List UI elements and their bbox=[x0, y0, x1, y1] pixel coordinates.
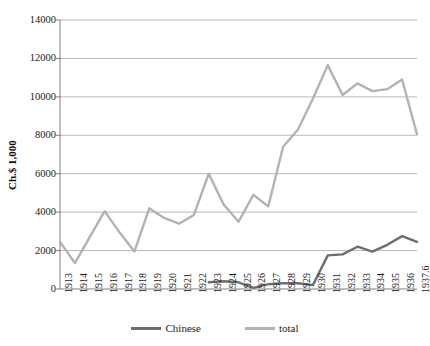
x-axis-tick-label: 1931 bbox=[332, 273, 342, 293]
x-axis-tick-label: 1916 bbox=[109, 273, 119, 293]
x-axis-tick-label: 1924 bbox=[228, 273, 238, 293]
x-axis-tick-label: 1932 bbox=[347, 273, 357, 293]
y-axis-tick-label: 8000 bbox=[18, 130, 56, 141]
y-axis-tick-label: 10000 bbox=[18, 92, 56, 103]
legend-item: Chinese bbox=[131, 322, 200, 334]
legend-swatch-icon bbox=[131, 327, 161, 330]
x-axis-tick-label: 1926 bbox=[257, 273, 267, 293]
y-axis-tick-labels: 02000400060008000100001200014000 bbox=[16, 0, 56, 346]
x-axis-tick-label: 1933 bbox=[362, 273, 372, 293]
x-axis-tick-label: 1919 bbox=[153, 273, 163, 293]
x-axis-tick-label: 1937.6 bbox=[421, 266, 430, 294]
x-axis-tick-label: 1936 bbox=[406, 273, 416, 293]
x-axis-tick-label: 1927 bbox=[272, 273, 282, 293]
legend-item: total bbox=[245, 322, 299, 334]
x-axis-tick-label: 1930 bbox=[317, 273, 327, 293]
x-axis-tick-label: 1925 bbox=[243, 273, 253, 293]
legend-swatch-icon bbox=[245, 327, 275, 330]
x-axis-tick-label: 1918 bbox=[138, 273, 148, 293]
legend-label: total bbox=[279, 322, 299, 334]
x-axis-tick-label: 1913 bbox=[64, 273, 74, 293]
x-axis-tick-label: 1923 bbox=[213, 273, 223, 293]
x-axis-tick-label: 1917 bbox=[124, 273, 134, 293]
y-axis-tick-label: 2000 bbox=[18, 246, 56, 257]
x-axis-tick-label: 1928 bbox=[287, 273, 297, 293]
x-axis-tick-label: 1934 bbox=[376, 273, 386, 293]
x-axis-tick-label: 1915 bbox=[94, 273, 104, 293]
plot-area bbox=[0, 0, 430, 346]
chart-legend: Chinesetotal bbox=[0, 322, 430, 334]
y-axis-tick-label: 14000 bbox=[18, 15, 56, 26]
series-line-total bbox=[60, 65, 417, 263]
x-axis-tick-label: 1935 bbox=[391, 273, 401, 293]
y-axis-tick-label: 0 bbox=[18, 284, 56, 295]
y-axis-tick-label: 12000 bbox=[18, 53, 56, 64]
legend-label: Chinese bbox=[165, 322, 200, 334]
x-axis-tick-label: 1914 bbox=[79, 273, 89, 293]
x-axis-tick-label: 1921 bbox=[183, 273, 193, 293]
y-axis-tick-label: 6000 bbox=[18, 169, 56, 180]
chart-container: Ch.$ 1,000 02000400060008000100001200014… bbox=[0, 0, 430, 346]
x-axis-tick-label: 1922 bbox=[198, 273, 208, 293]
y-axis-tick-label: 4000 bbox=[18, 207, 56, 218]
x-axis-tick-label: 1929 bbox=[302, 273, 312, 293]
x-axis-tick-label: 1920 bbox=[168, 273, 178, 293]
